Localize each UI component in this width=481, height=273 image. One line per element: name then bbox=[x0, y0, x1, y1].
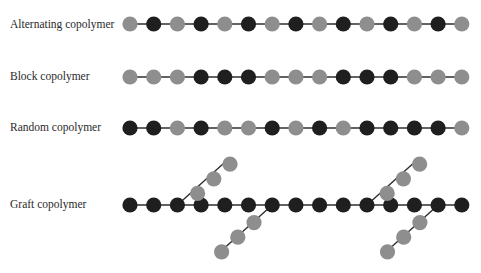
block-monomer-gray bbox=[454, 69, 469, 84]
alternating-monomer-black bbox=[288, 16, 303, 31]
random-monomer-gray bbox=[336, 120, 351, 135]
random-monomer-black bbox=[122, 120, 137, 135]
alternating-monomer-gray bbox=[454, 16, 469, 31]
alternating-monomer-gray bbox=[312, 16, 327, 31]
random-monomer-black bbox=[359, 120, 374, 135]
bonds-layer bbox=[130, 24, 462, 249]
block-monomer-gray bbox=[407, 69, 422, 84]
graft-monomer-black bbox=[217, 197, 232, 212]
label-random: Random copolymer bbox=[10, 121, 101, 134]
graft-monomer-black bbox=[122, 197, 137, 212]
random-monomer-black bbox=[407, 120, 422, 135]
graft-monomer-black bbox=[265, 197, 280, 212]
graft-branch-monomer-gray bbox=[412, 215, 427, 230]
graft-branch-monomer-gray bbox=[230, 230, 245, 245]
block-monomer-gray bbox=[431, 69, 446, 84]
alternating-monomer-black bbox=[194, 16, 209, 31]
graft-branch-monomer-gray bbox=[246, 215, 261, 230]
graft-monomer-black bbox=[146, 197, 161, 212]
graft-monomer-black bbox=[359, 197, 374, 212]
graft-branch-monomer-gray bbox=[190, 186, 205, 201]
graft-branch-monomer-gray bbox=[222, 157, 237, 172]
block-monomer-gray bbox=[265, 69, 280, 84]
label-alternating: Alternating copolymer bbox=[10, 18, 115, 31]
block-monomer-black bbox=[383, 69, 398, 84]
block-monomer-gray bbox=[146, 69, 161, 84]
graft-monomer-black bbox=[241, 197, 256, 212]
graft-branch-monomer-gray bbox=[206, 171, 221, 186]
random-monomer-black bbox=[194, 120, 209, 135]
graft-branch-monomer-gray bbox=[380, 186, 395, 201]
random-monomer-gray bbox=[241, 120, 256, 135]
random-monomer-black bbox=[431, 120, 446, 135]
alternating-monomer-gray bbox=[407, 16, 422, 31]
graft-monomer-black bbox=[407, 197, 422, 212]
random-monomer-black bbox=[383, 120, 398, 135]
block-monomer-gray bbox=[288, 69, 303, 84]
beads-layer bbox=[122, 16, 469, 259]
block-monomer-black bbox=[336, 69, 351, 84]
copolymer-diagram: Alternating copolymer Block copolymer Ra… bbox=[0, 0, 481, 273]
graft-monomer-black bbox=[431, 197, 446, 212]
label-block: Block copolymer bbox=[10, 70, 90, 83]
random-monomer-gray bbox=[454, 120, 469, 135]
alternating-monomer-gray bbox=[122, 16, 137, 31]
alternating-monomer-black bbox=[431, 16, 446, 31]
random-monomer-black bbox=[146, 120, 161, 135]
block-monomer-black bbox=[217, 69, 232, 84]
graft-monomer-black bbox=[312, 197, 327, 212]
alternating-monomer-gray bbox=[359, 16, 374, 31]
alternating-monomer-gray bbox=[217, 16, 232, 31]
random-monomer-gray bbox=[217, 120, 232, 135]
label-graft: Graft copolymer bbox=[10, 198, 86, 211]
graft-branch-monomer-gray bbox=[214, 244, 229, 259]
random-monomer-gray bbox=[288, 120, 303, 135]
random-monomer-black bbox=[265, 120, 280, 135]
block-monomer-black bbox=[359, 69, 374, 84]
alternating-monomer-black bbox=[241, 16, 256, 31]
graft-branch-monomer-gray bbox=[412, 157, 427, 172]
graft-branch-monomer-gray bbox=[396, 171, 411, 186]
graft-monomer-black bbox=[288, 197, 303, 212]
block-monomer-gray bbox=[170, 69, 185, 84]
graft-monomer-black bbox=[170, 197, 185, 212]
graft-branch-monomer-gray bbox=[396, 230, 411, 245]
alternating-monomer-gray bbox=[265, 16, 280, 31]
graft-monomer-black bbox=[336, 197, 351, 212]
block-monomer-black bbox=[241, 69, 256, 84]
alternating-monomer-black bbox=[383, 16, 398, 31]
graft-branch-monomer-gray bbox=[380, 244, 395, 259]
random-monomer-black bbox=[312, 120, 327, 135]
block-monomer-gray bbox=[122, 69, 137, 84]
alternating-monomer-black bbox=[146, 16, 161, 31]
alternating-monomer-black bbox=[336, 16, 351, 31]
graft-monomer-black bbox=[454, 197, 469, 212]
random-monomer-gray bbox=[170, 120, 185, 135]
alternating-monomer-gray bbox=[170, 16, 185, 31]
block-monomer-black bbox=[194, 69, 209, 84]
block-monomer-gray bbox=[312, 69, 327, 84]
